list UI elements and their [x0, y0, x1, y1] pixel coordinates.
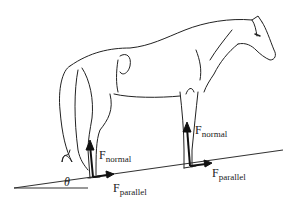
horse-drawing [59, 16, 275, 178]
rear-normal-arrowhead [86, 140, 94, 150]
front-normal-arrow [187, 128, 190, 166]
rear-normal-label: Fnormal [99, 148, 132, 164]
front-parallel-arrowhead [204, 160, 212, 167]
front-normal-label: Fnormal [195, 123, 228, 139]
horse-incline-diagram: Fnormal Fparallel Fnormal Fparallel θ [0, 0, 297, 207]
rear-parallel-arrow [93, 175, 108, 177]
rear-parallel-label: Fparallel [113, 181, 147, 197]
angle-theta-label: θ [64, 175, 70, 189]
rear-parallel-arrowhead [106, 171, 114, 178]
incline-line [14, 150, 283, 188]
front-normal-arrowhead [183, 122, 191, 132]
front-parallel-label: Fparallel [212, 166, 246, 182]
